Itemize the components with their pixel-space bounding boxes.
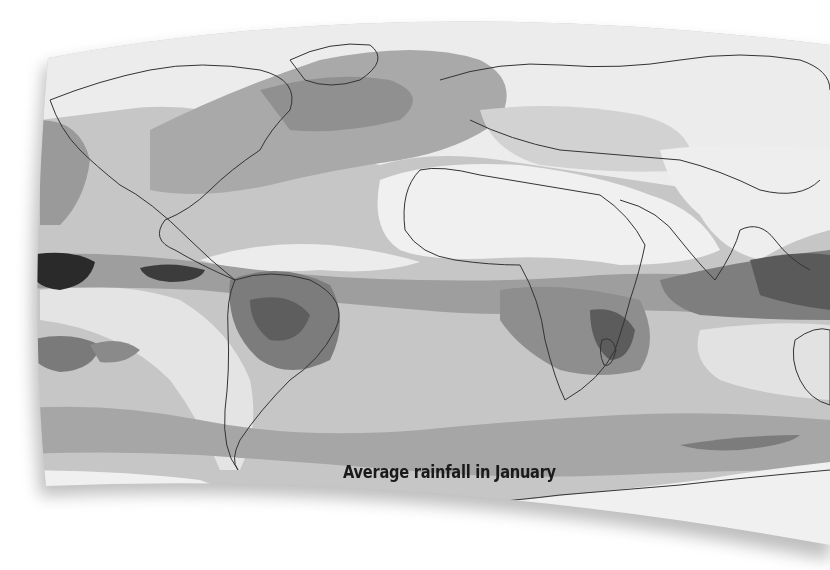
rainfall-map: Average rainfall in January (0, 0, 830, 570)
map-caption: Average rainfall in January (343, 462, 556, 482)
world-map-graphic (0, 0, 830, 570)
